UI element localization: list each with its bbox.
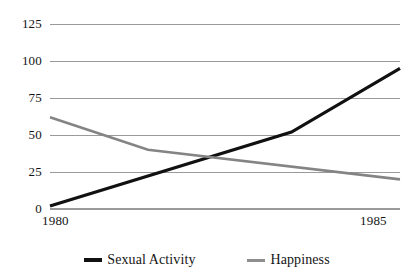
y-axis-tick-label: 25 [0,165,42,178]
gridlines [50,24,400,209]
legend-item-happiness: Happiness [247,252,329,268]
legend-line-swatch-gray [247,259,265,262]
y-axis-tick-label: 0 [0,202,42,215]
chart-legend: Sexual Activity Happiness [0,248,414,272]
series-line-sexual-activity [50,68,400,206]
x-axis-tick-label-end: 1985 [360,214,387,227]
legend-label: Sexual Activity [107,252,195,268]
y-axis-tick-label: 100 [0,54,42,67]
legend-item-sexual-activity: Sexual Activity [84,252,195,268]
y-axis-tick-label: 75 [0,91,42,104]
series-line-happiness [50,117,400,179]
legend-line-swatch-black [84,258,102,262]
legend-label: Happiness [270,252,329,268]
y-axis-tick-label: 125 [0,17,42,30]
data-series [50,68,400,206]
chart-canvas [0,0,414,280]
y-axis-tick-label: 50 [0,128,42,141]
x-axis-tick-label-start: 1980 [42,214,69,227]
line-chart: 125 100 75 50 25 0 1980 1985 Sexual Acti… [0,0,414,280]
